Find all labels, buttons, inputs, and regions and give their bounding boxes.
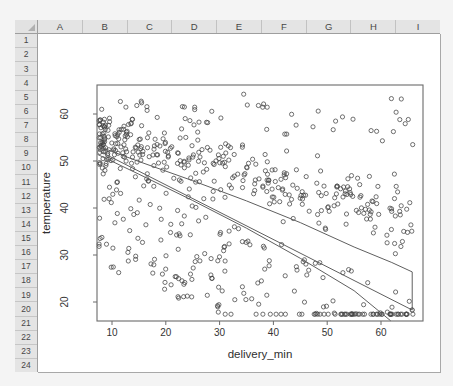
confidence-band-upper [98,146,413,272]
row-header-14[interactable]: 14 [15,218,37,232]
column-header-I[interactable]: I [396,20,440,33]
row-header-5[interactable]: 5 [15,91,37,105]
scatter-plot-chart[interactable]: 1020304050602030405060delivery_mintemper… [38,34,440,372]
column-header-F[interactable]: F [262,20,307,33]
y-tick-label: 30 [59,249,70,261]
row-header-23[interactable]: 23 [15,345,37,359]
y-tick-label: 20 [59,296,70,308]
row-header-24[interactable]: 24 [15,359,37,372]
worksheet: ABCDEFGHI 123456789101112131415161718192… [15,20,440,372]
spreadsheet-app: { "spreadsheet": { "column_headers": ["A… [0,0,453,386]
row-header-4[interactable]: 4 [15,76,37,90]
x-tick-label: 40 [268,327,280,338]
row-header-9[interactable]: 9 [15,147,37,161]
row-header-column: 123456789101112131415161718192021222324 [15,34,38,372]
x-tick-label: 30 [214,327,226,338]
row-header-13[interactable]: 13 [15,204,37,218]
row-header-11[interactable]: 11 [15,175,37,189]
column-header-G[interactable]: G [307,20,352,33]
row-header-20[interactable]: 20 [15,302,37,316]
column-header-B[interactable]: B [83,20,128,33]
row-header-12[interactable]: 12 [15,189,37,203]
y-axis-title: temperature [40,172,52,234]
row-header-3[interactable]: 3 [15,62,37,76]
row-header-15[interactable]: 15 [15,232,37,246]
row-header-7[interactable]: 7 [15,119,37,133]
row-header-19[interactable]: 19 [15,288,37,302]
y-tick-label: 40 [59,202,70,214]
row-header-18[interactable]: 18 [15,274,37,288]
column-header-A[interactable]: A [38,20,83,33]
column-header-E[interactable]: E [217,20,262,33]
column-header-D[interactable]: D [172,20,217,33]
select-all-corner[interactable] [15,20,38,34]
row-header-16[interactable]: 16 [15,246,37,260]
y-tick-label: 60 [59,108,70,120]
regression-line [98,150,413,310]
x-tick-label: 60 [375,327,387,338]
column-header-row: ABCDEFGHI [38,20,440,34]
row-header-6[interactable]: 6 [15,105,37,119]
confidence-band-lower [98,154,391,320]
row-header-8[interactable]: 8 [15,133,37,147]
column-header-C[interactable]: C [128,20,173,33]
x-tick-label: 10 [106,327,118,338]
row-header-22[interactable]: 22 [15,331,37,345]
x-tick-label: 50 [322,327,334,338]
select-all-triangle-icon [28,24,35,31]
row-header-21[interactable]: 21 [15,317,37,331]
row-header-2[interactable]: 2 [15,48,37,62]
x-tick-label: 20 [160,327,172,338]
column-header-H[interactable]: H [351,20,396,33]
row-header-17[interactable]: 17 [15,260,37,274]
cell-grid[interactable]: 1020304050602030405060delivery_mintemper… [38,34,441,373]
x-axis-title: delivery_min [228,348,293,360]
y-tick-label: 50 [59,155,70,167]
row-header-1[interactable]: 1 [15,34,37,48]
row-header-10[interactable]: 10 [15,161,37,175]
